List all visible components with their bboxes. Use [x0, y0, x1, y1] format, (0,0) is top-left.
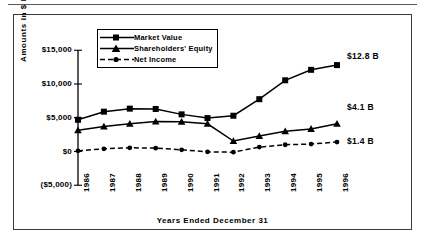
data-marker-square	[256, 96, 262, 102]
data-marker-square	[127, 106, 133, 112]
data-marker-circle	[283, 142, 288, 147]
legend-swatch-triangle-line	[100, 43, 134, 54]
chart-legend: Market Value Shareholders' Equity Net In…	[97, 29, 218, 68]
data-marker-circle	[102, 146, 107, 151]
data-marker-square	[308, 67, 314, 73]
series-line-market-value	[78, 65, 337, 120]
legend-item-shareholders-equity: Shareholders' Equity	[100, 43, 213, 54]
value-annotation: $1.4 B	[347, 136, 374, 146]
legend-label-shareholders-equity: Shareholders' Equity	[134, 44, 213, 53]
data-marker-square	[75, 117, 81, 123]
data-marker-square	[334, 62, 340, 68]
data-marker-triangle	[333, 120, 341, 127]
data-marker-circle	[335, 140, 340, 145]
legend-swatch-square-line	[100, 32, 134, 43]
data-marker-circle	[76, 148, 81, 153]
data-marker-square	[282, 77, 288, 83]
chart-figure: Amounts in $ Millions ($5,000)$0$5,000$1…	[0, 0, 425, 243]
legend-label-market-value: Market Value	[134, 33, 182, 42]
x-axis-title: Years Ended December 31	[0, 216, 425, 225]
data-marker-square	[179, 111, 185, 117]
legend-item-net-income: Net Income	[100, 54, 213, 65]
value-annotation: $12.8 B	[347, 51, 379, 61]
data-marker-circle	[309, 142, 314, 147]
data-marker-circle	[127, 145, 132, 150]
data-marker-circle	[205, 149, 210, 154]
data-marker-circle	[231, 150, 236, 155]
legend-label-net-income: Net Income	[134, 55, 176, 64]
legend-swatch-circle-dashed-line	[100, 54, 134, 65]
series-layer	[74, 62, 341, 154]
data-marker-circle	[179, 147, 184, 152]
data-marker-square	[230, 113, 236, 119]
data-marker-square	[153, 106, 159, 112]
data-marker-circle	[153, 146, 158, 151]
data-marker-circle	[257, 145, 262, 150]
value-annotation: $4.1 B	[347, 102, 374, 112]
data-marker-square	[101, 109, 107, 115]
legend-item-market-value: Market Value	[100, 32, 213, 43]
